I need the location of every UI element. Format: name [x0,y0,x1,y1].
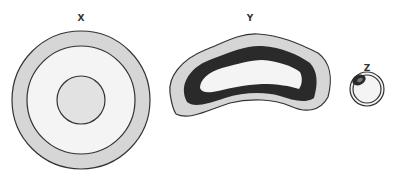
diagram-canvas [0,0,397,178]
cell-x [12,31,150,169]
cell-z [350,72,384,106]
cell-y [170,34,331,116]
